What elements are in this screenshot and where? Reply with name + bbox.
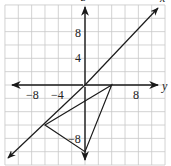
diagonal-axis-label: x [159, 0, 166, 5]
horizontal-axis-label: y [161, 79, 168, 93]
tick-label-h-8: 8 [133, 88, 139, 102]
tick-label-v-8: 8 [75, 26, 81, 40]
diagonal-axis-positive [85, 8, 158, 85]
coordinate-plane-figure: −8 −4 8 8 4 −8 y z x [0, 0, 171, 166]
vertical-axis-label: z [80, 0, 86, 4]
tick-label-h-neg4: −4 [51, 88, 64, 102]
tick-label-h-neg8: −8 [26, 88, 39, 102]
tick-label-v-neg8: −8 [68, 132, 81, 146]
diagonal-axis [8, 85, 85, 158]
tick-label-v-4: 4 [75, 51, 81, 65]
